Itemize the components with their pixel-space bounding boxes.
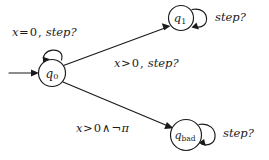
label-self-loop-q0: x=0, step?: [12, 27, 77, 39]
label-transition-q0-to-qbad: x>0∧¬π: [76, 123, 129, 135]
label-self-loop-q1: step?: [215, 12, 246, 24]
state-machine-diagram: q0 q1 qbad x=0, step? x>0, step? x>0∧¬π …: [0, 0, 269, 160]
label-transition-q0-to-q1: x>0, step?: [114, 58, 179, 70]
label-self-loop-qbad: step?: [223, 128, 254, 140]
initial-state-arrow: [9, 69, 39, 76]
